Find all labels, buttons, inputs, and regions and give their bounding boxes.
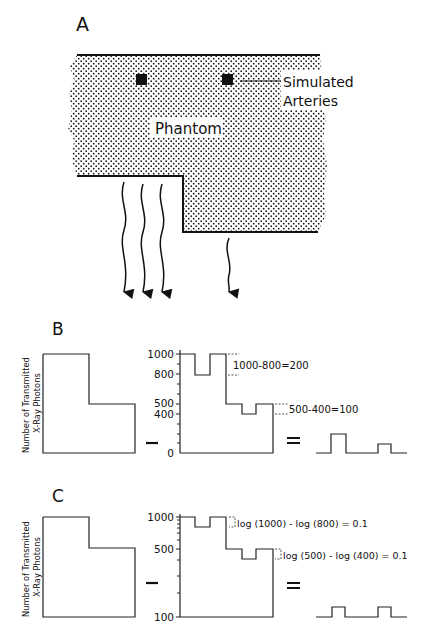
panel-a: A Phantom Simulated Arteries xyxy=(68,13,361,292)
artery-square-right xyxy=(222,74,233,85)
y-axis-label-line2: X-Ray Photons xyxy=(32,373,42,433)
artery-square-left xyxy=(136,74,147,85)
contrast-profile xyxy=(180,517,273,617)
y-axis-label-line2: X-Ray Photons xyxy=(32,537,42,597)
contrast-chart: 1000 800 500 400 0 1000-800=200 500-400=… xyxy=(147,348,358,459)
difference-profile xyxy=(316,607,407,617)
equals-operator xyxy=(287,583,300,588)
panel-a-label: A xyxy=(76,13,89,35)
panel-b: B Number of Transmitted X-Ray Photons xyxy=(21,319,407,459)
contrast-chart-log: 1000 500 100 log (1000) - log (800) = 0.… xyxy=(147,511,407,623)
mask-profile xyxy=(43,517,135,617)
xray-arrow-4 xyxy=(227,238,230,292)
y-axis-label-line1: Number of Transmitted xyxy=(21,521,31,617)
figure-canvas: A Phantom Simulated Arteries B Number of… xyxy=(0,0,431,638)
xray-arrow-1 xyxy=(122,182,125,292)
annotation-log-500-400: log (500) - log (400) = 0.1 xyxy=(283,550,408,561)
tick-1000: 1000 xyxy=(147,511,174,523)
equals-operator xyxy=(287,438,300,443)
tick-500: 500 xyxy=(154,543,174,555)
xray-arrow-2 xyxy=(141,184,144,292)
annotation-1000-800: 1000-800=200 xyxy=(233,360,309,371)
annotation-500-400: 500-400=100 xyxy=(289,404,358,415)
tick-1000: 1000 xyxy=(147,348,174,360)
difference-profile xyxy=(316,434,407,453)
y-axis-label-line1: Number of Transmitted xyxy=(21,357,31,453)
simulated-label: Simulated xyxy=(283,74,354,90)
tick-0: 0 xyxy=(167,447,174,459)
mask-profile xyxy=(43,354,135,453)
panel-c: C Number of Transmitted X-Ray Photons xyxy=(21,486,408,623)
arteries-label: Arteries xyxy=(283,93,338,109)
tick-800: 800 xyxy=(154,368,174,380)
tick-400: 400 xyxy=(154,408,174,420)
phantom-label: Phantom xyxy=(155,120,222,138)
panel-b-label: B xyxy=(52,319,64,339)
xray-arrow-3 xyxy=(160,184,163,292)
tick-100: 100 xyxy=(154,611,174,623)
panel-c-label: C xyxy=(52,486,64,506)
annotation-log-1000-800: log (1000) - log (800) = 0.1 xyxy=(237,518,368,529)
